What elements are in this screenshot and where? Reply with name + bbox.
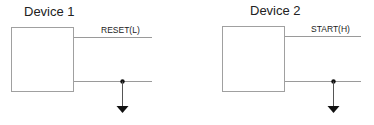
device-1-signal-label: RESET(L) xyxy=(101,25,140,35)
device-1-box xyxy=(12,28,74,92)
device-2-group: Device 2 START(H) xyxy=(223,3,362,113)
ground-icon xyxy=(117,106,129,113)
device-2-box xyxy=(223,27,285,92)
ground-icon xyxy=(328,106,340,113)
diagram-canvas: Device 1 RESET(L) Device 2 START(H) xyxy=(0,0,374,125)
device-2-signal-label: START(H) xyxy=(311,24,350,34)
device-1-title: Device 1 xyxy=(24,4,75,19)
device-2-title: Device 2 xyxy=(250,3,301,18)
device-1-group: Device 1 RESET(L) xyxy=(12,4,153,113)
